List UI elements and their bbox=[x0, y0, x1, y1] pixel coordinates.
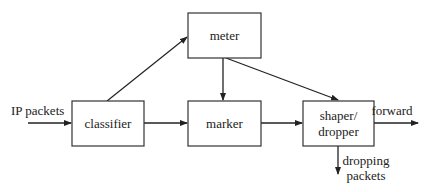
label-dropping: dropping bbox=[343, 153, 390, 168]
node-classifier-label: classifier bbox=[85, 116, 133, 131]
edge-classifier-to-meter bbox=[107, 37, 187, 101]
node-meter: meter bbox=[188, 13, 261, 58]
node-shaper-label-line2: dropper bbox=[318, 124, 359, 139]
edge-meter-to-shaper bbox=[226, 58, 338, 100]
node-shaper-dropper: shaper/ dropper bbox=[303, 101, 374, 146]
label-ip-packets: IP packets bbox=[11, 103, 64, 118]
node-meter-label: meter bbox=[210, 28, 240, 43]
label-packets: packets bbox=[347, 168, 386, 183]
node-classifier: classifier bbox=[72, 101, 144, 146]
node-shaper-label-line1: shaper/ bbox=[320, 108, 358, 123]
diagram-canvas: meter classifier marker shaper/ dropper … bbox=[0, 0, 441, 192]
node-marker: marker bbox=[188, 101, 261, 146]
label-forward: forward bbox=[371, 103, 413, 118]
node-marker-label: marker bbox=[206, 116, 243, 131]
